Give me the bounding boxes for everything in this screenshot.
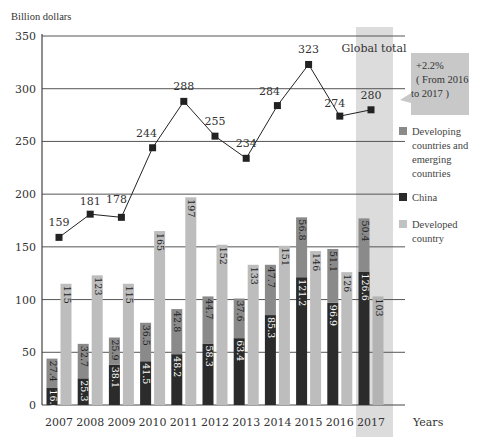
line-value-label: 159: [49, 216, 70, 229]
bar-label-china: 96.9: [328, 305, 339, 326]
x-tick-label: 2008: [76, 416, 104, 429]
bar-developed: [217, 245, 228, 405]
bar-label-developing: 32.7: [79, 346, 90, 367]
x-tick-label: 2015: [295, 416, 323, 429]
bar-label-developed: 151: [280, 248, 291, 266]
line-marker: [212, 133, 219, 140]
bar-label-developed: 165: [155, 233, 166, 251]
bar-developed: [310, 251, 321, 405]
bar-label-developed: 123: [93, 277, 104, 295]
bar-label-china: 16.6: [48, 389, 59, 410]
bar-label-developed: 152: [218, 247, 229, 265]
line-marker: [305, 61, 312, 68]
bar-label-developing: 37.6: [235, 301, 246, 322]
bar-developed: [248, 265, 259, 405]
legend-item-developed: Developed country: [399, 218, 468, 246]
legend-label: Developed: [412, 219, 457, 230]
y-tick-label: 350: [15, 30, 36, 43]
y-tick-label: 150: [15, 241, 36, 254]
bar-label-developed: 115: [124, 286, 135, 304]
callout-line: ( From 2016: [416, 73, 469, 87]
x-tick-label: 2013: [232, 416, 260, 429]
bar-label-developing: 27.4: [48, 361, 59, 382]
x-tick-label: 2012: [201, 416, 229, 429]
line-value-label: 284: [259, 85, 280, 98]
bar-label-developing: 36.5: [141, 325, 152, 346]
y-tick-label: 0: [29, 399, 36, 412]
line-value-label: 280: [361, 89, 382, 102]
callout-pointer: [400, 93, 411, 103]
bar-label-developing: 44.7: [204, 298, 215, 319]
y-tick-label: 100: [15, 294, 36, 307]
legend-label: China: [412, 192, 437, 203]
bar-label-developing: 51.1: [328, 251, 339, 272]
bar-label-china: 38.1: [110, 367, 121, 388]
bar-label-developed: 126: [342, 274, 353, 292]
line-value-label: 234: [236, 137, 257, 150]
bar-label-china: 58.3: [204, 346, 215, 367]
bar-label-china: 85.3: [266, 317, 277, 338]
bar-label-china: 48.2: [172, 356, 183, 377]
bar-label-developing: 42.8: [172, 311, 183, 332]
legend-label: country: [399, 232, 468, 246]
x-tick-label: 2010: [139, 416, 167, 429]
bar-label-china: 121.2: [297, 279, 308, 306]
line-value-label: 274: [324, 97, 345, 110]
legend-item-china: China: [399, 191, 468, 205]
y-tick-label: 200: [15, 188, 36, 201]
y-tick-label: 50: [22, 346, 36, 359]
x-tick-label: 2011: [170, 416, 198, 429]
bar-label-developed: 146: [311, 253, 322, 271]
line-marker: [87, 211, 94, 218]
bar-label-china: 25.3: [79, 380, 90, 401]
line-marker: [274, 102, 281, 109]
legend-item-developing: Developing countries and emerging countr…: [399, 125, 468, 181]
bar-label-developing: 25.9: [110, 340, 121, 361]
line-marker: [368, 106, 375, 113]
bar-label-developing: 56.8: [297, 219, 308, 240]
legend-label: countries: [412, 167, 468, 181]
legend-label: Developing: [412, 126, 461, 137]
legend-swatch: [399, 193, 407, 201]
chart-title-unit: Billion dollars: [11, 11, 71, 22]
y-tick-label: 250: [15, 135, 36, 148]
legend-label: emerging: [412, 153, 468, 167]
line-global-total: [59, 64, 371, 237]
bar-label-china: 63.4: [235, 340, 246, 361]
bar-label-developed: 103: [374, 298, 385, 316]
line-marker: [336, 113, 343, 120]
line-value-label: 255: [205, 115, 226, 128]
line-value-label: 323: [298, 43, 319, 56]
bar-label-developed: 197: [186, 199, 197, 217]
bar-label-china: 126.6: [360, 274, 371, 301]
bar-label-developed: 133: [249, 267, 260, 285]
line-value-label: 178: [106, 193, 127, 206]
line-marker: [56, 234, 63, 241]
bar-label-developed: 115: [62, 286, 73, 304]
bar-label-developing: 50.4: [360, 220, 371, 241]
bar-label-china: 41.5: [141, 363, 152, 384]
x-tick-label: 2007: [45, 416, 73, 429]
legend-swatch: [399, 220, 407, 228]
x-tick-label: 2014: [263, 416, 291, 429]
callout-line: +2.2%: [416, 59, 469, 73]
line-value-label: 181: [80, 195, 101, 208]
x-tick-label: 2009: [107, 416, 135, 429]
y-tick-label: 300: [15, 83, 36, 96]
line-marker: [180, 98, 187, 105]
legend: Developing countries and emerging countr…: [399, 125, 468, 246]
legend-label: countries and: [412, 139, 468, 153]
x-tick-label: 2017: [357, 416, 385, 429]
callout-line: to 2017 ): [411, 87, 469, 101]
line-marker: [243, 155, 250, 162]
line-marker: [149, 144, 156, 151]
legend-swatch: [399, 127, 407, 135]
line-marker: [118, 214, 125, 221]
bar-label-developing: 47.7: [266, 267, 277, 288]
growth-callout: +2.2% ( From 2016 to 2017 ): [411, 53, 469, 115]
bar-developed: [154, 231, 165, 405]
line-value-label: 244: [136, 127, 157, 140]
bar-developed: [279, 246, 290, 405]
x-tick-label: 2016: [326, 416, 354, 429]
x-axis-label: Years: [412, 416, 444, 429]
